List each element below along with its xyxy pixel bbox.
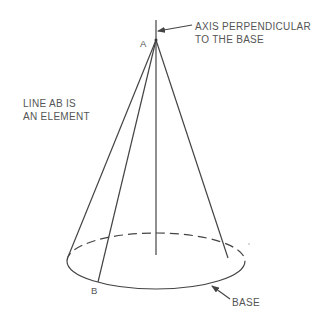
apex-point bbox=[155, 39, 158, 42]
cone-diagram: A B AXIS PERPENDICULAR TO THE BASE LINE … bbox=[0, 0, 330, 313]
apex-label: A bbox=[140, 38, 147, 49]
axis-annotation-line1: AXIS PERPENDICULAR bbox=[195, 21, 311, 32]
base-point-label: B bbox=[91, 285, 97, 296]
element-annotation-line2: AN ELEMENT bbox=[23, 111, 90, 122]
element-annotation-line1: LINE AB IS bbox=[23, 98, 76, 109]
base-annotation: BASE bbox=[232, 297, 260, 308]
right-generator bbox=[156, 40, 228, 258]
base-leader-arrow bbox=[212, 286, 230, 299]
axis-annotation-line2: TO THE BASE bbox=[195, 34, 264, 45]
axis-leader-arrow bbox=[158, 25, 192, 31]
scan-speck bbox=[248, 243, 249, 244]
